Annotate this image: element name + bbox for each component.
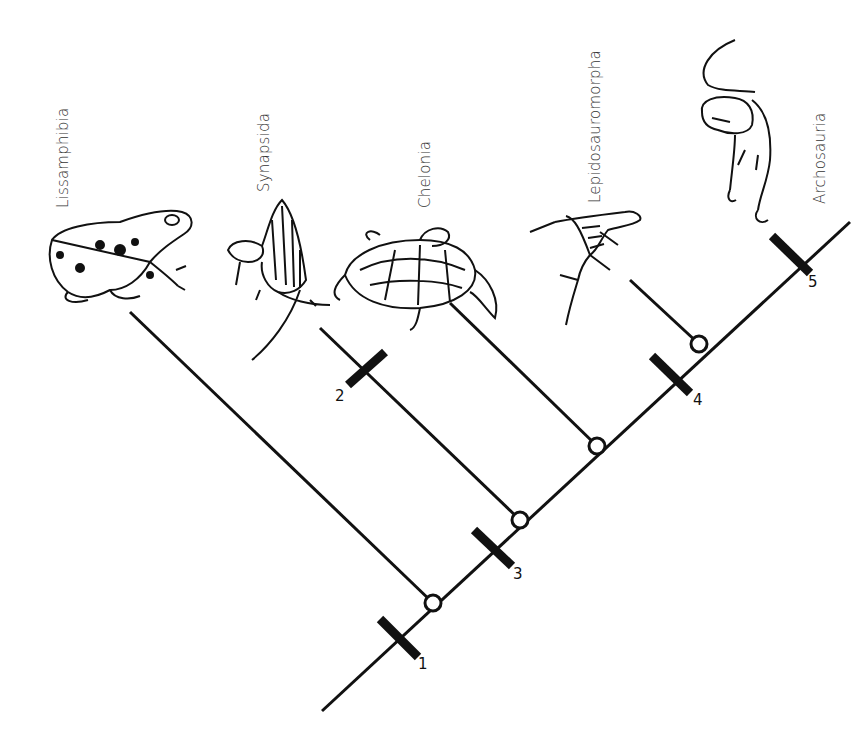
node-3 <box>589 438 605 454</box>
tick-label-1: 1 <box>418 655 428 673</box>
node-4 <box>691 336 707 352</box>
tick-5 <box>772 236 810 273</box>
node-1 <box>425 595 441 611</box>
taxon-label-synapsida: Synapsida <box>255 113 273 192</box>
cladogram <box>0 0 865 747</box>
branch-lepidosauromorpha <box>630 280 699 344</box>
dimetrodon-icon <box>228 200 330 360</box>
lizard-icon <box>530 212 640 325</box>
frog-icon <box>50 211 192 302</box>
taxon-label-lepidosauromorpha: Lepidosauromorpha <box>586 50 604 203</box>
node-2 <box>512 512 528 528</box>
turtle-icon <box>335 228 497 330</box>
branch-synapsida <box>320 328 520 520</box>
taxon-label-archosauria: Archosauria <box>811 113 829 204</box>
branch-chelonia <box>450 303 597 446</box>
taxon-label-chelonia: Chelonia <box>416 141 434 208</box>
tick-3 <box>474 530 512 566</box>
taxon-label-lissamphibia: Lissamphibia <box>54 108 72 208</box>
tick-label-5: 5 <box>808 273 818 291</box>
theropod-dinosaur-icon <box>702 40 771 222</box>
tick-label-2: 2 <box>335 387 345 405</box>
tick-2 <box>348 352 385 385</box>
tick-label-4: 4 <box>693 391 703 409</box>
tick-label-3: 3 <box>513 565 523 583</box>
